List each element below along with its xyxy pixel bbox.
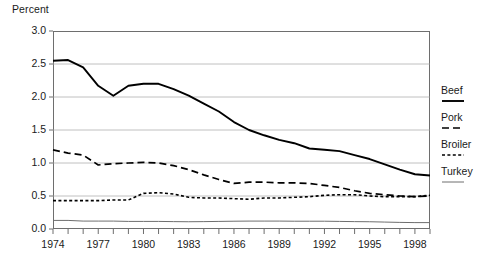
y-tick-label: 3.0 bbox=[12, 24, 46, 36]
legend-entry-broiler[interactable]: Broiler bbox=[441, 138, 484, 159]
x-tick-label: 1974 bbox=[33, 238, 73, 250]
x-tick-label: 1980 bbox=[123, 238, 163, 250]
x-tick-label: 1995 bbox=[350, 238, 390, 250]
y-tick-label: 2.0 bbox=[12, 90, 46, 102]
series-line-broiler bbox=[53, 193, 430, 201]
legend-entry-pork[interactable]: Pork bbox=[441, 111, 484, 132]
y-tick-label: 1.5 bbox=[12, 123, 46, 135]
y-tick-label: 0.0 bbox=[12, 222, 46, 234]
y-tick-label: 0.5 bbox=[12, 189, 46, 201]
series-line-beef bbox=[53, 60, 430, 175]
legend-line-sample-turkey bbox=[441, 177, 465, 186]
legend-line-sample-beef bbox=[441, 96, 465, 105]
x-tick-label: 1986 bbox=[214, 238, 254, 250]
legend: BeefPorkBroilerTurkey bbox=[441, 84, 484, 192]
legend-label: Beef bbox=[441, 84, 484, 96]
y-tick-label: 1.0 bbox=[12, 156, 46, 168]
x-tick-label: 1989 bbox=[259, 238, 299, 250]
legend-line-sample-pork bbox=[441, 123, 465, 132]
legend-label: Broiler bbox=[441, 138, 484, 150]
x-tick-label: 1977 bbox=[78, 238, 118, 250]
series-line-turkey bbox=[53, 220, 430, 222]
y-tick-label: 2.5 bbox=[12, 57, 46, 69]
legend-label: Turkey bbox=[441, 165, 484, 177]
legend-entry-beef[interactable]: Beef bbox=[441, 84, 484, 105]
series-line-pork bbox=[53, 150, 430, 197]
x-tick-label: 1992 bbox=[304, 238, 344, 250]
legend-label: Pork bbox=[441, 111, 484, 123]
legend-entry-turkey[interactable]: Turkey bbox=[441, 165, 484, 186]
line-chart: Percent 3.02.52.01.51.00.50.0 1974197719… bbox=[0, 0, 484, 280]
x-tick-label: 1983 bbox=[169, 238, 209, 250]
legend-line-sample-broiler bbox=[441, 150, 465, 159]
x-tick-label: 1998 bbox=[395, 238, 435, 250]
